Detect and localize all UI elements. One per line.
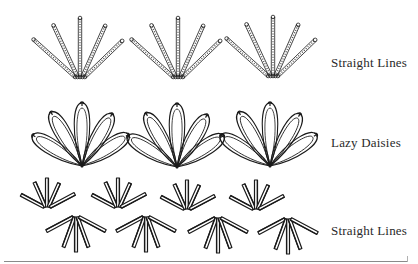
label-lazy-daisies: Lazy Daisies bbox=[331, 135, 401, 151]
straight-line-fan bbox=[130, 16, 222, 79]
straight-line-fan-inverted bbox=[116, 216, 176, 252]
label-straight-lines-top: Straight Lines bbox=[331, 55, 407, 71]
row-straight-lines-bottom bbox=[20, 178, 318, 254]
straight-line-fan bbox=[32, 16, 124, 79]
straight-line-fan bbox=[225, 15, 317, 78]
straight-line-fan-upright bbox=[229, 180, 284, 210]
straight-line-fan-upright bbox=[91, 178, 146, 208]
stitch-diagram: Straight Lines Lazy Daisies Straight Lin… bbox=[0, 0, 418, 264]
row-lazy-daisies bbox=[28, 102, 322, 174]
label-straight-lines-bottom: Straight Lines bbox=[331, 223, 407, 239]
lazy-daisy-fan bbox=[123, 103, 229, 174]
straight-line-fan-upright bbox=[160, 180, 215, 210]
rule-end-tick bbox=[407, 256, 408, 262]
row-straight-lines-top bbox=[32, 15, 317, 79]
straight-line-fan-inverted bbox=[258, 218, 318, 254]
bottom-rule bbox=[4, 261, 408, 262]
straight-line-fan-inverted bbox=[188, 217, 248, 253]
lazy-daisy-fan bbox=[28, 102, 134, 173]
straight-line-fan-upright bbox=[20, 178, 75, 208]
straight-line-fan-inverted bbox=[46, 216, 106, 252]
lazy-daisy-fan bbox=[216, 102, 322, 173]
